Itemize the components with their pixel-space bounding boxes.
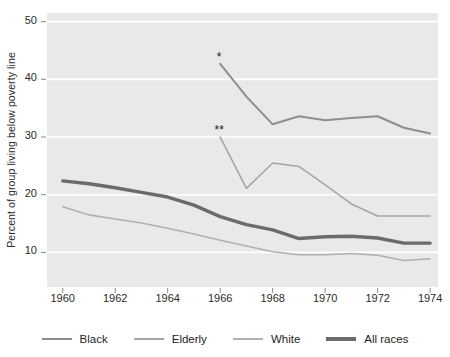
x-tick-label-6: 1972 (356, 292, 400, 304)
legend-swatch-icon (233, 338, 263, 340)
x-tick-label-4: 1968 (251, 292, 295, 304)
legend-swatch-icon (134, 338, 164, 340)
y-tick-label-2: 30 (11, 129, 37, 141)
annotation-asterisk-2: ** (215, 123, 225, 137)
legend-item-all-races[interactable]: All races (326, 333, 408, 345)
legend-label: Black (80, 333, 108, 345)
annotation-asterisk-1: * (217, 50, 222, 64)
chart-canvas: *** (0, 0, 450, 310)
x-tick-label-3: 1966 (198, 292, 242, 304)
x-tick-label-1: 1962 (93, 292, 137, 304)
legend-label: Elderly (172, 333, 207, 345)
legend-label: White (271, 333, 300, 345)
poverty-line-chart-figure: Percent of group living below poverty li… (0, 0, 450, 357)
plot-area-wrapper: *** 1020304050 1960196219641966196819701… (0, 0, 450, 310)
y-tick-label-4: 50 (11, 14, 37, 26)
x-tick-label-7: 1974 (408, 292, 450, 304)
y-tick-label-3: 40 (11, 71, 37, 83)
legend-item-elderly[interactable]: Elderly (134, 333, 207, 345)
y-tick-label-1: 20 (11, 187, 37, 199)
y-tick-label-0: 10 (11, 244, 37, 256)
legend-swatch-icon (326, 337, 356, 341)
legend-swatch-icon (42, 338, 72, 340)
x-tick-label-0: 1960 (41, 292, 85, 304)
legend-label: All races (364, 333, 408, 345)
chart-legend: BlackElderlyWhiteAll races (0, 324, 450, 354)
legend-item-black[interactable]: Black (42, 333, 108, 345)
x-tick-label-2: 1964 (146, 292, 190, 304)
legend-item-white[interactable]: White (233, 333, 300, 345)
x-tick-label-5: 1970 (303, 292, 347, 304)
